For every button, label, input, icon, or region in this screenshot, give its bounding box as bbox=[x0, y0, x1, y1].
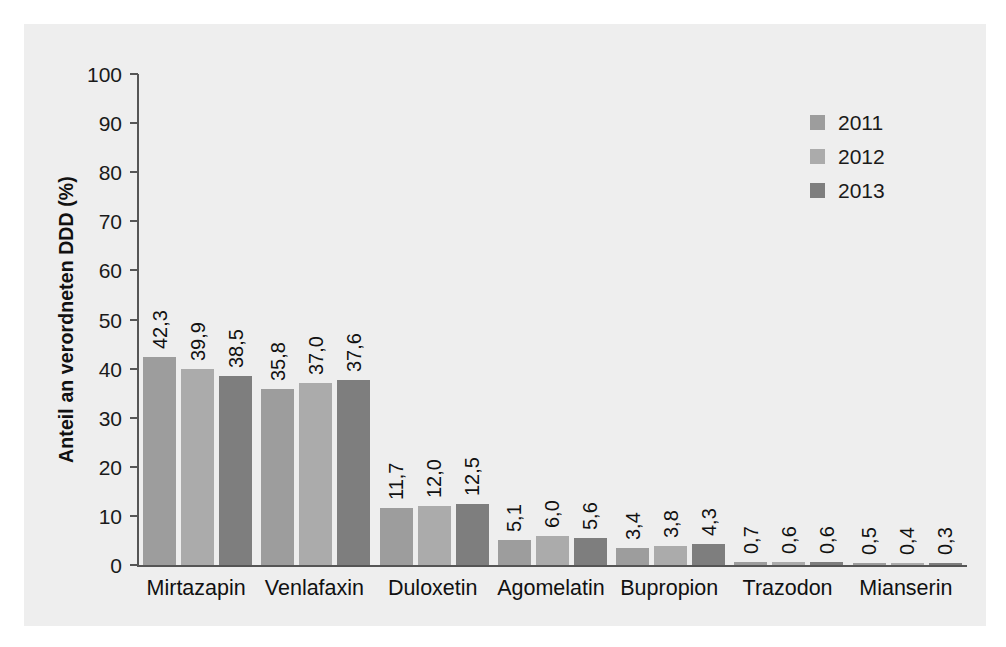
bar[interactable] bbox=[143, 357, 176, 565]
bar[interactable] bbox=[299, 383, 332, 565]
legend-item[interactable]: 2013 bbox=[810, 176, 885, 204]
bar[interactable] bbox=[536, 536, 569, 565]
bar[interactable] bbox=[616, 548, 649, 565]
bar-column[interactable]: 0,7 bbox=[734, 74, 767, 565]
bar[interactable] bbox=[261, 389, 294, 565]
bar-column[interactable]: 35,8 bbox=[261, 74, 294, 565]
y-axis-tick bbox=[130, 515, 138, 517]
y-axis-tick-label: 50 bbox=[66, 309, 122, 330]
bar-group: 5,16,05,6 bbox=[498, 74, 607, 565]
bar[interactable] bbox=[574, 538, 607, 565]
bar[interactable] bbox=[181, 369, 214, 565]
bar[interactable] bbox=[380, 508, 413, 565]
legend-label: 2012 bbox=[838, 146, 885, 167]
bar[interactable] bbox=[772, 562, 805, 565]
bar-column[interactable]: 39,9 bbox=[181, 74, 214, 565]
y-axis-tick-label: 40 bbox=[66, 358, 122, 379]
bar[interactable] bbox=[734, 562, 767, 565]
bar-value-label: 11,7 bbox=[386, 462, 406, 499]
bar[interactable] bbox=[654, 546, 687, 565]
bar[interactable] bbox=[692, 544, 725, 565]
category-label: Mianserin bbox=[847, 576, 965, 601]
bar[interactable] bbox=[456, 504, 489, 565]
bar-value-label: 6,0 bbox=[542, 500, 562, 528]
bar-column[interactable]: 12,5 bbox=[456, 74, 489, 565]
bar-column[interactable]: 3,8 bbox=[654, 74, 687, 565]
bar-value-label: 0,4 bbox=[897, 527, 917, 555]
bar-column[interactable]: 0,4 bbox=[891, 74, 924, 565]
bar-value-label: 3,4 bbox=[623, 513, 643, 541]
bar-column[interactable]: 38,5 bbox=[219, 74, 252, 565]
legend-item[interactable]: 2011 bbox=[810, 108, 885, 136]
x-axis-line bbox=[137, 565, 967, 567]
bar-column[interactable]: 5,6 bbox=[574, 74, 607, 565]
legend-swatch-icon bbox=[810, 115, 825, 130]
bar-group: 3,43,84,3 bbox=[616, 74, 725, 565]
bar-column[interactable]: 37,6 bbox=[337, 74, 370, 565]
y-axis-tick-label: 70 bbox=[66, 211, 122, 232]
bar-value-label: 0,6 bbox=[817, 526, 837, 554]
y-axis-tick-label: 80 bbox=[66, 162, 122, 183]
y-axis-tick-label: 20 bbox=[66, 456, 122, 477]
bar[interactable] bbox=[337, 380, 370, 565]
bar-column[interactable]: 0,6 bbox=[772, 74, 805, 565]
y-axis-tick-label: 10 bbox=[66, 505, 122, 526]
y-axis-tick bbox=[130, 417, 138, 419]
legend-swatch-icon bbox=[810, 149, 825, 164]
bar-column[interactable]: 0,3 bbox=[929, 74, 962, 565]
bar[interactable] bbox=[498, 540, 531, 565]
bar-column[interactable]: 37,0 bbox=[299, 74, 332, 565]
bar-value-label: 4,3 bbox=[699, 508, 719, 536]
legend-swatch-icon bbox=[810, 183, 825, 198]
bar-value-label: 37,6 bbox=[344, 333, 364, 372]
bar-column[interactable]: 6,0 bbox=[536, 74, 569, 565]
legend-label: 2013 bbox=[838, 180, 885, 201]
y-axis-tick bbox=[130, 564, 138, 566]
bar-column[interactable]: 12,0 bbox=[418, 74, 451, 565]
bar-value-label: 39,9 bbox=[188, 322, 208, 361]
y-axis-tick bbox=[130, 466, 138, 468]
bar-group: 35,837,037,6 bbox=[261, 74, 370, 565]
category-label: Agomelatin bbox=[492, 576, 610, 601]
bar-value-label: 37,0 bbox=[306, 336, 326, 375]
bar-value-label: 12,0 bbox=[424, 459, 444, 498]
bar[interactable] bbox=[891, 563, 924, 565]
y-axis-tick bbox=[130, 319, 138, 321]
y-axis-tick bbox=[130, 171, 138, 173]
chart-legend: 201120122013 bbox=[810, 108, 885, 210]
bar[interactable] bbox=[810, 562, 843, 565]
bar-value-label: 12,5 bbox=[462, 457, 482, 496]
bar[interactable] bbox=[418, 506, 451, 565]
bar-column[interactable]: 11,7 bbox=[380, 74, 413, 565]
bar[interactable] bbox=[929, 563, 962, 565]
y-axis-tick bbox=[130, 220, 138, 222]
y-axis-tick-label: 0 bbox=[66, 555, 122, 576]
bar-value-label: 0,5 bbox=[859, 527, 879, 555]
y-axis-tick-label: 60 bbox=[66, 260, 122, 281]
bar-group: 11,712,012,5 bbox=[380, 74, 489, 565]
bar-column[interactable]: 4,3 bbox=[692, 74, 725, 565]
bar-column[interactable]: 3,4 bbox=[616, 74, 649, 565]
y-axis-tick-label: 30 bbox=[66, 407, 122, 428]
bar-value-label: 5,1 bbox=[504, 504, 524, 532]
category-label: Bupropion bbox=[610, 576, 728, 601]
category-label: Venlafaxin bbox=[255, 576, 373, 601]
y-axis-tick-label: 100 bbox=[66, 64, 122, 85]
category-label: Duloxetin bbox=[374, 576, 492, 601]
bar-group: 42,339,938,5 bbox=[143, 74, 252, 565]
bar-value-label: 3,8 bbox=[661, 511, 681, 539]
legend-label: 2011 bbox=[838, 112, 883, 133]
bar-value-label: 38,5 bbox=[226, 329, 246, 368]
chart-panel: Anteil an verordneten DDD (%) 0102030405… bbox=[24, 24, 986, 626]
bar-value-label: 35,8 bbox=[268, 342, 288, 381]
bar-column[interactable]: 42,3 bbox=[143, 74, 176, 565]
y-axis-tick bbox=[130, 269, 138, 271]
y-axis-tick bbox=[130, 368, 138, 370]
bar-value-label: 5,6 bbox=[580, 502, 600, 530]
legend-item[interactable]: 2012 bbox=[810, 142, 885, 170]
bar[interactable] bbox=[219, 376, 252, 565]
bar-value-label: 0,6 bbox=[779, 526, 799, 554]
bar[interactable] bbox=[853, 563, 886, 565]
bar-column[interactable]: 5,1 bbox=[498, 74, 531, 565]
y-axis-tick-labels: 0102030405060708090100 bbox=[24, 24, 122, 626]
